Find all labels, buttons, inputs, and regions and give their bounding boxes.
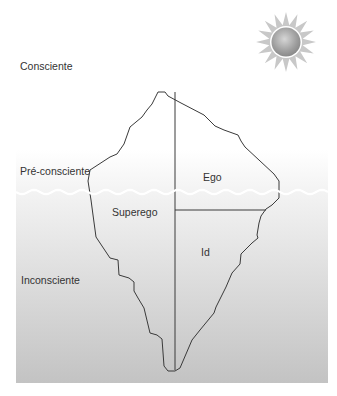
- water-background: [16, 150, 328, 383]
- region-label-ego: Ego: [203, 171, 222, 183]
- region-label-id: Id: [201, 246, 210, 258]
- level-label-conscious: Consciente: [20, 60, 73, 72]
- level-label-preconscious: Pré-consciente: [20, 165, 90, 177]
- level-label-unconscious: Inconsciente: [21, 274, 80, 286]
- region-label-superego: Superego: [112, 206, 158, 218]
- sun-icon: [256, 12, 316, 72]
- iceberg-diagram: Consciente Pré-consciente Inconsciente E…: [0, 0, 337, 396]
